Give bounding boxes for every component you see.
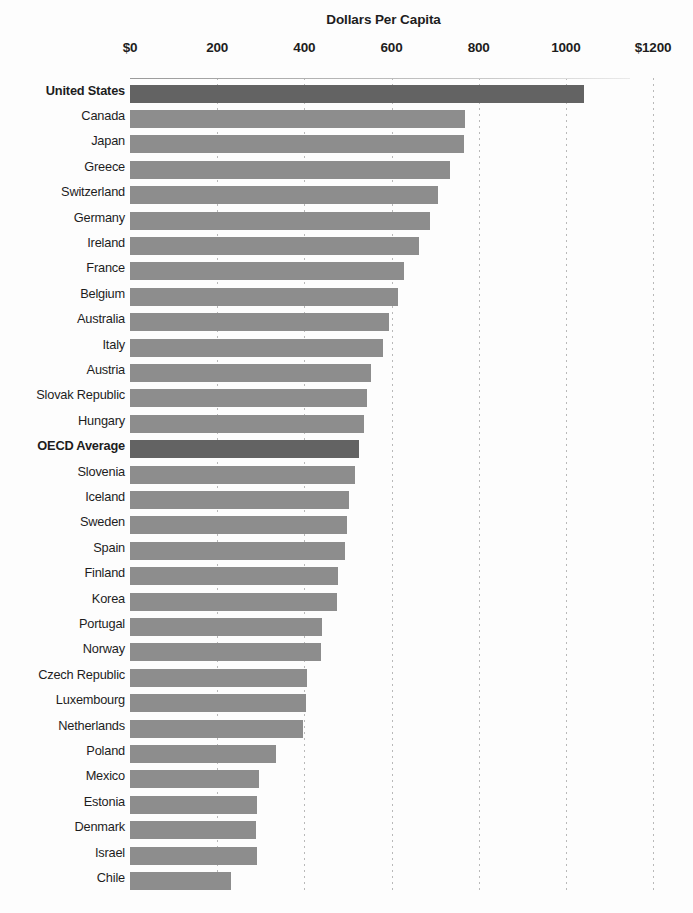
category-label: Slovenia <box>0 464 125 479</box>
bar <box>130 643 321 661</box>
bar-row <box>130 513 653 538</box>
category-label: Estonia <box>0 794 125 809</box>
category-label: Korea <box>0 591 125 606</box>
bar <box>130 491 349 509</box>
chart-axis-title-text: Dollars Per Capita <box>326 12 441 27</box>
bar <box>130 212 430 230</box>
bar <box>130 669 307 687</box>
category-label: Israel <box>0 845 125 860</box>
x-tick-label: $0 <box>123 40 138 55</box>
category-label: Poland <box>0 743 125 758</box>
bar-row <box>130 285 653 310</box>
bar <box>130 85 584 103</box>
bar <box>130 567 338 585</box>
bar-row <box>130 844 653 869</box>
chart-axis-title: Dollars Per Capita <box>0 12 693 27</box>
x-tick-label: 600 <box>381 40 403 55</box>
bar <box>130 262 404 280</box>
category-label: Denmark <box>0 819 125 834</box>
category-label: Slovak Republic <box>0 387 125 402</box>
category-label: Japan <box>0 133 125 148</box>
x-tick-label: 1000 <box>551 40 580 55</box>
category-label: Ireland <box>0 235 125 250</box>
category-label: Chile <box>0 870 125 885</box>
bar-row <box>130 590 653 615</box>
bar <box>130 770 259 788</box>
category-label: Czech Republic <box>0 667 125 682</box>
bar <box>130 872 231 890</box>
bar <box>130 720 303 738</box>
bar-row <box>130 539 653 564</box>
x-tick-label: 200 <box>206 40 228 55</box>
category-label: Iceland <box>0 489 125 504</box>
category-label: Luxembourg <box>0 692 125 707</box>
bar <box>130 313 389 331</box>
bar <box>130 135 464 153</box>
gridline <box>653 78 654 890</box>
bar-row <box>130 310 653 335</box>
bar <box>130 847 257 865</box>
category-label: United States <box>0 83 125 98</box>
bar-row <box>130 793 653 818</box>
category-label: Netherlands <box>0 718 125 733</box>
category-label: Hungary <box>0 413 125 428</box>
bar-chart: Dollars Per Capita $02004006008001000$12… <box>0 0 693 913</box>
category-label: Switzerland <box>0 184 125 199</box>
bar-row <box>130 183 653 208</box>
category-label: Finland <box>0 565 125 580</box>
bar <box>130 593 337 611</box>
bar <box>130 745 276 763</box>
x-tick-label: 400 <box>293 40 315 55</box>
bar-row <box>130 666 653 691</box>
x-tick-label: $1200 <box>635 40 672 55</box>
plot-area <box>130 78 653 890</box>
category-label: Portugal <box>0 616 125 631</box>
bar-row <box>130 767 653 792</box>
bar-row <box>130 361 653 386</box>
bar <box>130 618 322 636</box>
category-label: Germany <box>0 210 125 225</box>
bar-row <box>130 209 653 234</box>
bar-row <box>130 132 653 157</box>
bar <box>130 364 371 382</box>
bar-row <box>130 412 653 437</box>
category-label: Austria <box>0 362 125 377</box>
bar <box>130 542 345 560</box>
bar <box>130 466 355 484</box>
category-label: Australia <box>0 311 125 326</box>
category-label: France <box>0 260 125 275</box>
bar-row <box>130 107 653 132</box>
bar <box>130 694 306 712</box>
bar-row <box>130 82 653 107</box>
bar-row <box>130 818 653 843</box>
bar-row <box>130 437 653 462</box>
bar <box>130 110 465 128</box>
x-tick-label: 800 <box>468 40 490 55</box>
bar-row <box>130 234 653 259</box>
bar <box>130 161 450 179</box>
category-label: Spain <box>0 540 125 555</box>
plot-top-rule <box>130 78 630 79</box>
x-axis-tick-labels: $02004006008001000$1200 <box>0 40 693 62</box>
bar-row <box>130 336 653 361</box>
category-label: Mexico <box>0 768 125 783</box>
category-label: Sweden <box>0 514 125 529</box>
bar-row <box>130 615 653 640</box>
category-axis-labels: United StatesCanadaJapanGreeceSwitzerlan… <box>0 78 125 890</box>
category-label: Greece <box>0 159 125 174</box>
bar-row <box>130 640 653 665</box>
bar <box>130 288 398 306</box>
category-label: OECD Average <box>0 438 125 453</box>
category-label: Canada <box>0 108 125 123</box>
bar-row <box>130 259 653 284</box>
bar <box>130 415 364 433</box>
bar-row <box>130 869 653 894</box>
bar <box>130 237 419 255</box>
bar-row <box>130 742 653 767</box>
bar-row <box>130 564 653 589</box>
category-label: Belgium <box>0 286 125 301</box>
bar <box>130 821 256 839</box>
bar <box>130 796 257 814</box>
bar <box>130 389 367 407</box>
bar-row <box>130 691 653 716</box>
